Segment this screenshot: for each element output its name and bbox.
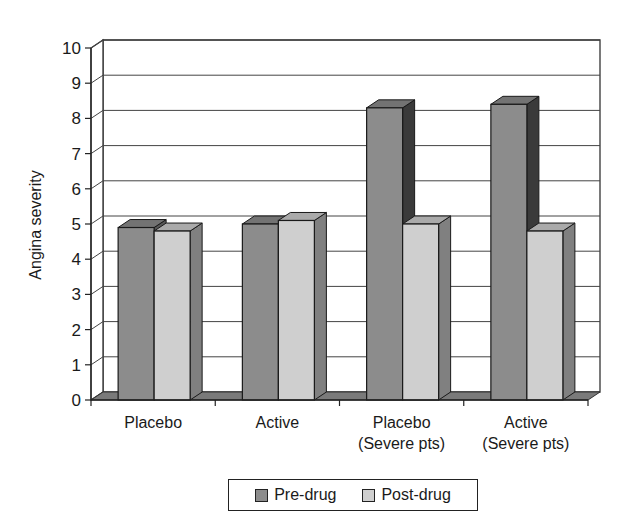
bar-post-drug-1	[278, 212, 326, 400]
x-category-label-line: Active	[256, 414, 300, 431]
y-tick-label: 10	[62, 39, 81, 58]
x-category-label-line: (Severe pts)	[482, 435, 569, 452]
y-axis-title: Angina severity	[27, 170, 44, 279]
bar-post-drug-3	[527, 223, 575, 400]
y-tick-label: 0	[72, 391, 81, 410]
y-tick-label: 3	[72, 285, 81, 304]
x-axis: PlaceboActivePlacebo(Severe pts)Active(S…	[91, 400, 588, 452]
y-axis: 012345678910	[62, 39, 91, 410]
legend-swatch-pre-drug	[255, 489, 268, 502]
bar-side	[563, 223, 575, 400]
legend-label-pre-drug: Pre-drug	[274, 486, 336, 504]
y-tick-label: 7	[72, 145, 81, 164]
bar-side	[314, 212, 326, 400]
x-category-label: Placebo(Severe pts)	[358, 414, 445, 452]
legend: Pre-drug Post-drug	[228, 479, 478, 511]
bar-side	[190, 223, 202, 400]
chart-canvas: 012345678910 PlaceboActivePlacebo(Severe…	[0, 0, 623, 530]
y-tick-label: 6	[72, 180, 81, 199]
x-category-label-line: Placebo	[373, 414, 431, 431]
y-tick-label: 2	[72, 321, 81, 340]
bar-front	[242, 224, 278, 400]
bar-front	[118, 228, 154, 400]
x-category-label: Active(Severe pts)	[482, 414, 569, 452]
bar-front	[527, 231, 563, 400]
x-category-label-line: Active	[504, 414, 548, 431]
y-tick-label: 8	[72, 109, 81, 128]
bar-post-drug-2	[403, 216, 451, 400]
y-tick-label: 1	[72, 356, 81, 375]
y-tick-label: 5	[72, 215, 81, 234]
bar-front	[278, 220, 314, 400]
bar-post-drug-0	[154, 223, 202, 400]
x-category-label-line: (Severe pts)	[358, 435, 445, 452]
legend-item-pre-drug: Pre-drug	[255, 486, 336, 504]
bar-front	[154, 231, 190, 400]
legend-label-post-drug: Post-drug	[381, 486, 450, 504]
bar-front	[491, 104, 527, 400]
bar-front	[403, 224, 439, 400]
x-category-label: Placebo	[124, 414, 182, 431]
y-tick-label: 4	[72, 250, 81, 269]
y-tick-label: 9	[72, 74, 81, 93]
x-category-label-line: Placebo	[124, 414, 182, 431]
bar-front	[367, 108, 403, 400]
legend-item-post-drug: Post-drug	[362, 486, 450, 504]
bar-side	[439, 216, 451, 400]
legend-swatch-post-drug	[362, 489, 375, 502]
x-category-label: Active	[256, 414, 300, 431]
